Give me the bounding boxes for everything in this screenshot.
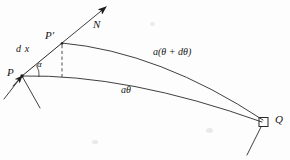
label-point-p-prime: P′ [45, 30, 54, 41]
label-chord-dx: d x [16, 44, 30, 54]
diagram-svg [0, 0, 290, 160]
scan-speck [150, 22, 155, 26]
node-dot-p-prime [61, 42, 64, 45]
lower-arc-path [22, 76, 262, 122]
label-point-q: Q [275, 114, 283, 125]
label-upper-arc: a(θ + dθ) [153, 47, 191, 57]
square-marker-q [259, 118, 268, 127]
label-normal-vector: N [93, 19, 100, 30]
arrow-into-point-p [13, 76, 22, 86]
radius-ray-from-q [247, 127, 261, 155]
scan-speck [92, 140, 98, 144]
scan-speck [206, 128, 213, 133]
node-dot-p [20, 74, 23, 77]
label-angle-alpha: α [37, 60, 42, 69]
figure-canvas: N P′ d x P α a(θ + dθ) aθ Q [0, 0, 290, 160]
label-lower-arc: aθ [121, 85, 131, 95]
radius-ray-from-p [22, 76, 40, 108]
label-point-p: P [7, 67, 14, 78]
